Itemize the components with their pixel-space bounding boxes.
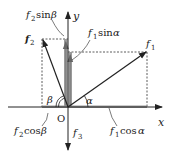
svg-text:1: 1 — [115, 131, 119, 139]
f1-sin-alpha-label: f 1 sin α — [87, 27, 120, 41]
vector-f1 — [68, 52, 146, 107]
f2-label: f 2 — [24, 33, 34, 47]
svg-text:1: 1 — [93, 33, 97, 41]
svg-text:1: 1 — [151, 44, 155, 52]
f1-cos-alpha-label: f 1 cos α — [109, 125, 145, 139]
force-diagram: y x O α β f 1 f 2 f 3 f 2 sin β f 1 sin … — [0, 0, 174, 156]
svg-text:β: β — [50, 9, 57, 20]
svg-text:sin: sin — [98, 27, 113, 38]
y-axis-label: y — [72, 10, 80, 23]
svg-text:sin: sin — [36, 9, 51, 20]
f3-label: f 3 — [72, 127, 82, 141]
projection-lines — [42, 39, 147, 107]
beta-label: β — [46, 94, 53, 105]
origin-label: O — [57, 113, 65, 124]
svg-text:α: α — [138, 125, 145, 136]
x-axis-label: x — [158, 116, 165, 129]
svg-text:2: 2 — [31, 15, 35, 23]
svg-text:2: 2 — [19, 131, 23, 139]
f1-label: f 1 — [145, 38, 155, 52]
svg-text:β: β — [40, 125, 47, 136]
alpha-label: α — [86, 95, 93, 106]
f2-sin-beta-leader — [52, 20, 64, 36]
svg-text:α: α — [113, 27, 120, 38]
f1-sin-alpha-leader — [72, 40, 90, 60]
svg-text:cos: cos — [120, 125, 137, 136]
f1-cos-alpha-leader — [109, 108, 117, 126]
svg-text:2: 2 — [30, 39, 34, 47]
svg-text:cos: cos — [24, 125, 41, 136]
svg-text:3: 3 — [78, 133, 82, 141]
f2-cos-beta-label: f 2 cos β — [13, 125, 47, 139]
